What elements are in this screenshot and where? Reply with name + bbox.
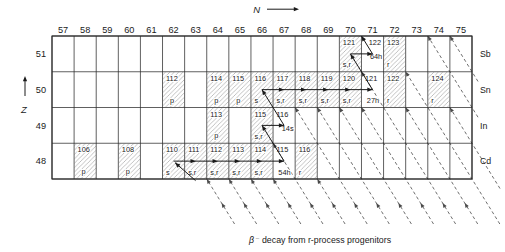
- n-column-header-58: 58: [80, 25, 90, 35]
- n-column-header-68: 68: [301, 25, 311, 35]
- mass-number: 115: [254, 110, 266, 119]
- mass-number: 115: [277, 145, 289, 154]
- mass-number: 119: [321, 74, 333, 83]
- element-label-Sb: Sb: [480, 49, 491, 59]
- r-decay-mid-arrowhead: [397, 202, 403, 208]
- mass-number: 116: [254, 74, 266, 83]
- r-decay-line-A126: [448, 35, 478, 81]
- n-axis-arrow: [267, 7, 299, 11]
- mass-number: 110: [166, 145, 178, 154]
- caption-beta-symbol: β⁻: [248, 235, 260, 245]
- n-column-header-59: 59: [102, 25, 112, 35]
- n-column-header-60: 60: [124, 25, 134, 35]
- n-column-header-73: 73: [412, 25, 422, 35]
- process-tag: s,r: [343, 96, 352, 105]
- process-tag: s,r: [343, 60, 352, 69]
- r-decay-line-A112: [227, 178, 256, 224]
- mass-number: 124: [431, 74, 443, 83]
- r-decay-line-A118: [316, 107, 390, 224]
- n-column-header-63: 63: [191, 25, 201, 35]
- r-decay-mid-arrowhead: [242, 202, 248, 208]
- nuclide-cell-Sb-122: 12264h: [369, 38, 382, 61]
- nuclide-chart-figure: 121s,r12264h123r112p114p115p116s117s,r11…: [0, 0, 505, 252]
- mass-number: 123: [387, 38, 399, 47]
- mass-number: 111: [188, 145, 199, 154]
- process-tag: s,r: [299, 96, 308, 105]
- z-axis-arrow: [23, 76, 27, 96]
- mass-number: 113: [210, 110, 222, 119]
- r-decay-mid-arrowhead: [330, 202, 336, 208]
- r-decay-mid-arrowhead: [463, 202, 469, 208]
- halflife-label: 54h: [278, 168, 290, 177]
- r-decay-mid-arrowhead: [308, 202, 314, 208]
- n-column-header-61: 61: [146, 25, 156, 35]
- process-tag: p: [236, 96, 240, 105]
- process-tag: p: [214, 131, 218, 140]
- mass-number: 108: [122, 145, 134, 154]
- mass-number: 120: [343, 74, 355, 83]
- mass-number: 122: [369, 38, 381, 47]
- n-axis-label: N: [253, 4, 260, 15]
- mass-number: 114: [210, 74, 222, 83]
- r-decay-line-A124: [448, 107, 500, 189]
- process-tag: s,r: [232, 168, 241, 177]
- process-tag: s,r: [254, 132, 263, 141]
- z-row-label-50: 50: [36, 85, 46, 95]
- n-column-header-64: 64: [213, 25, 223, 35]
- r-decay-line-A122: [404, 107, 478, 224]
- process-tag: s,r: [321, 96, 330, 105]
- z-row-label-51: 51: [36, 49, 46, 59]
- mass-number: 121: [365, 74, 377, 83]
- n-column-header-72: 72: [390, 25, 400, 35]
- mass-number: 121: [343, 38, 355, 47]
- r-decay-line-A116: [316, 178, 345, 224]
- process-tag: p: [214, 96, 218, 105]
- element-label-Cd: Cd: [480, 156, 491, 166]
- z-axis-label: Z: [20, 104, 28, 115]
- mass-number: 122: [387, 74, 399, 83]
- z-row-label-49: 49: [36, 121, 46, 131]
- r-decay-line-A114: [271, 178, 300, 224]
- mass-number: 115: [232, 74, 244, 83]
- n-column-header-66: 66: [257, 25, 267, 35]
- process-tag: s,r: [254, 168, 263, 177]
- element-label-Sn: Sn: [480, 85, 491, 95]
- process-tag: p: [82, 167, 86, 176]
- r-decay-mid-arrowhead: [375, 202, 381, 208]
- process-tag: s,r: [210, 168, 219, 177]
- figure-caption: β⁻decay from r-process progenitors: [248, 235, 392, 245]
- mass-number: 112: [166, 74, 178, 83]
- r-decay-mid-arrowhead: [353, 202, 359, 208]
- mass-number: 116: [277, 110, 289, 119]
- r-decay-dashed-line: [229, 179, 257, 224]
- r-decay-dashed-line: [450, 36, 478, 81]
- r-decay-line-A111: [205, 178, 234, 224]
- n-column-header-71: 71: [367, 25, 377, 35]
- nuclide-cell-In-116: 11614s: [277, 110, 294, 133]
- mass-number: 114: [254, 145, 266, 154]
- process-tag: s: [254, 96, 258, 105]
- r-decay-mid-arrowhead: [286, 202, 292, 208]
- r-decay-mid-arrowhead: [419, 202, 425, 208]
- mass-number: 113: [232, 145, 244, 154]
- mass-number: 116: [299, 145, 311, 154]
- r-decay-mid-arrowhead: [220, 202, 226, 208]
- n-column-header-57: 57: [58, 25, 68, 35]
- r-decay-mid-arrowhead: [441, 202, 447, 208]
- r-decay-line-A113: [249, 178, 278, 224]
- mass-number: 117: [277, 74, 289, 83]
- mass-number: 106: [78, 145, 90, 154]
- n-column-header-74: 74: [434, 25, 444, 35]
- r-decay-dashed-line: [450, 108, 500, 189]
- r-decay-dashed-line: [207, 179, 235, 224]
- n-column-header-65: 65: [235, 25, 245, 35]
- r-decay-mid-arrowhead: [264, 202, 270, 208]
- caption-text: decay from r-process progenitors: [262, 235, 392, 245]
- r-decay-dashed-line: [251, 179, 279, 224]
- r-decay-dashed-line: [273, 179, 301, 224]
- r-decay-dashed-line: [317, 179, 345, 224]
- chart-of-nuclides-svg: 121s,r12264h123r112p114p115p116s117s,r11…: [0, 0, 505, 252]
- halflife-label: 27h: [367, 96, 379, 105]
- process-tag: s,r: [277, 96, 286, 105]
- r-decay-line-A119: [338, 107, 412, 224]
